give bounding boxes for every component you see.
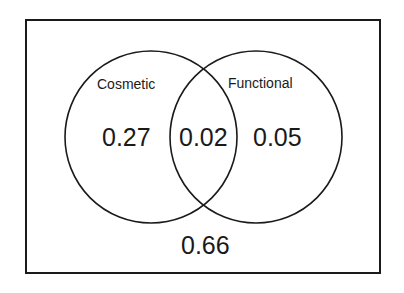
cosmetic-label: Cosmetic bbox=[97, 76, 155, 92]
cosmetic-only-value: 0.27 bbox=[102, 123, 151, 151]
functional-label: Functional bbox=[228, 75, 293, 91]
outside-value: 0.66 bbox=[181, 231, 230, 259]
intersection-value: 0.02 bbox=[179, 123, 228, 151]
venn-diagram: Cosmetic Functional 0.27 0.02 0.05 0.66 bbox=[0, 0, 404, 293]
functional-only-value: 0.05 bbox=[253, 123, 302, 151]
